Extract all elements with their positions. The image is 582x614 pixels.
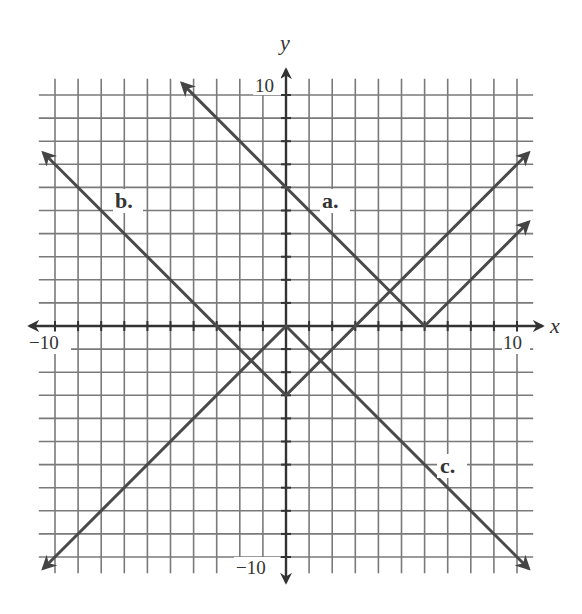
y-max-label: 10 bbox=[255, 75, 274, 96]
graph-b-label: b. bbox=[115, 188, 133, 213]
y-axis-label: y bbox=[278, 30, 290, 55]
graph-c-label: c. bbox=[440, 453, 455, 478]
x-axis-label: x bbox=[549, 313, 560, 338]
x-min-label: −10 bbox=[29, 332, 59, 353]
y-min-label: −10 bbox=[236, 557, 266, 578]
labels: y x −10 10 10 −10 b. a. c. bbox=[27, 30, 560, 578]
coordinate-plane: y x −10 10 10 −10 b. a. c. bbox=[0, 0, 582, 614]
graph-a-label: a. bbox=[322, 188, 339, 213]
x-max-label: 10 bbox=[503, 332, 522, 353]
